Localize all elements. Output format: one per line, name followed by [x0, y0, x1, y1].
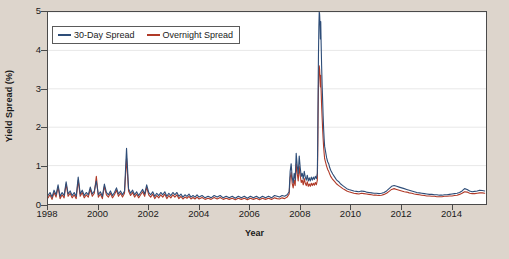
y-axis-title: Yield Spread (%)	[4, 9, 18, 203]
x-tick-mark	[401, 205, 402, 210]
legend-line-icon	[58, 34, 71, 36]
x-tick-mark	[98, 205, 99, 210]
legend-item[interactable]: Overnight Spread	[147, 30, 234, 40]
x-axis-title: Year	[0, 228, 509, 238]
y-tick-label: 5	[19, 5, 41, 16]
chart-figure: Yield Spread (%) 012345 1998200020022004…	[0, 0, 509, 259]
chart-legend: 30-Day SpreadOvernight Spread	[52, 26, 240, 44]
legend-item[interactable]: 30-Day Spread	[58, 30, 135, 40]
x-tick-mark	[148, 205, 149, 210]
y-tick-label: 4	[19, 44, 41, 55]
x-tick-mark	[249, 205, 250, 210]
legend-item-label: 30-Day Spread	[74, 30, 135, 40]
x-tick-mark	[47, 205, 48, 210]
y-tick-label: 3	[19, 83, 41, 94]
y-tick-label: 1	[19, 160, 41, 171]
x-tick-mark	[199, 205, 200, 210]
y-tick-label: 2	[19, 121, 41, 132]
legend-item-label: Overnight Spread	[163, 30, 234, 40]
x-tick-mark	[452, 205, 453, 210]
series-line-overnight-spread	[48, 66, 485, 200]
x-tick-mark	[300, 205, 301, 210]
x-tick-mark	[350, 205, 351, 210]
legend-line-icon	[147, 34, 160, 36]
